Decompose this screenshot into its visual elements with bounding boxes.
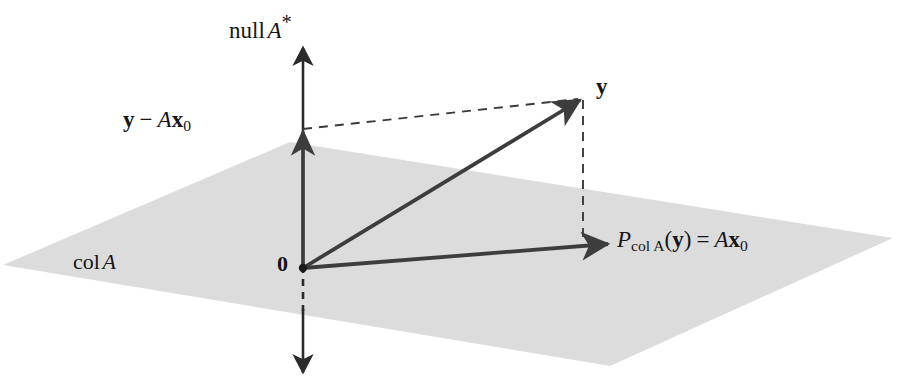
origin-label: 0 bbox=[277, 253, 288, 275]
residual-label: y−Ax0 bbox=[123, 108, 191, 134]
diagram-canvas bbox=[0, 0, 903, 389]
null-a-star-label: nullA* bbox=[229, 12, 292, 42]
null-a-star-matrix: A bbox=[268, 18, 282, 43]
residual-subscript: 0 bbox=[183, 117, 191, 134]
residual-y: y bbox=[123, 107, 135, 132]
projection-label: Pcol A(y)=Ax0 bbox=[617, 228, 748, 254]
origin-dot bbox=[299, 264, 307, 272]
col-a-label: colA bbox=[73, 251, 116, 273]
col-a-plane bbox=[3, 142, 893, 366]
residual-matrix: A bbox=[158, 107, 172, 132]
projection-diagram: nullA* y−Ax0 y Pcol A(y)=Ax0 colA 0 bbox=[0, 0, 903, 389]
projection-open-paren: ( bbox=[664, 227, 672, 252]
projection-x-subscript: 0 bbox=[740, 237, 748, 254]
projection-equals: = bbox=[696, 227, 709, 252]
col-a-name: col bbox=[73, 249, 100, 274]
null-a-star-name: null bbox=[229, 18, 265, 43]
projection-subscript: col A bbox=[631, 237, 664, 254]
projection-matrix: A bbox=[714, 227, 728, 252]
projection-x: x bbox=[728, 227, 740, 252]
residual-x: x bbox=[172, 107, 184, 132]
projection-y: y bbox=[672, 227, 684, 252]
projection-P: P bbox=[617, 227, 631, 252]
null-a-star-superscript: * bbox=[282, 11, 292, 33]
residual-minus: − bbox=[140, 107, 153, 132]
projection-close-paren: ) bbox=[684, 227, 692, 252]
col-a-matrix: A bbox=[103, 249, 116, 274]
y-vector-label: y bbox=[596, 75, 608, 98]
